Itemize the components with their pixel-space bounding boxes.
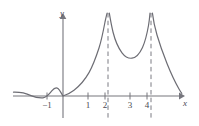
tick-label-2: 2 [101, 101, 109, 110]
tick-label-3: 3 [126, 101, 134, 110]
curve-left-branch [14, 13, 108, 98]
x-axis-label: x [183, 99, 187, 108]
tick-label-1: 1 [84, 101, 92, 110]
curve-middle-branch [109, 13, 150, 58]
graph-figure: y x −1 1 2 3 4 [0, 0, 199, 126]
plot-canvas [0, 0, 199, 126]
y-axis-label: y [60, 9, 64, 18]
tick-label-4: 4 [143, 101, 151, 110]
curve-right-branch [152, 13, 181, 93]
tick-label-minus-1: −1 [41, 101, 53, 110]
